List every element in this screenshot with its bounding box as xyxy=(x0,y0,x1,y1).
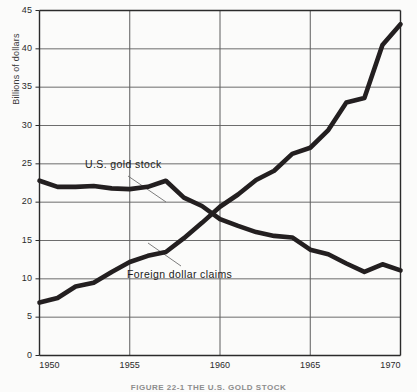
gridlines xyxy=(40,11,401,356)
figure-container: Billions of dollars U.S. gold stock Fore… xyxy=(0,0,417,392)
y-tick-label: 40 xyxy=(8,43,32,53)
y-tick-label: 20 xyxy=(8,196,32,206)
x-tick-label: 1960 xyxy=(197,360,243,370)
x-tick-label: 1955 xyxy=(107,360,153,370)
series-label-gold-stock: U.S. gold stock xyxy=(85,158,162,170)
figure-caption: FIGURE 22-1 THE U.S. GOLD STOCK xyxy=(0,383,417,392)
x-tick-label: 1950 xyxy=(27,360,73,370)
y-tick-label: 10 xyxy=(8,273,32,283)
y-tick-label: 15 xyxy=(8,235,32,245)
y-tick-label: 0 xyxy=(8,350,32,360)
x-tick-label: 1970 xyxy=(368,360,414,370)
x-tick-label: 1965 xyxy=(287,360,333,370)
plot-frame xyxy=(36,11,401,356)
y-tick-label: 5 xyxy=(8,311,32,321)
chart-plot xyxy=(0,0,417,392)
y-tick-label: 35 xyxy=(8,81,32,91)
series-label-foreign-claims: Foreign dollar claims xyxy=(127,268,232,280)
y-tick-label: 30 xyxy=(8,120,32,130)
y-tick-label: 25 xyxy=(8,158,32,168)
y-tick-label: 45 xyxy=(8,5,32,15)
